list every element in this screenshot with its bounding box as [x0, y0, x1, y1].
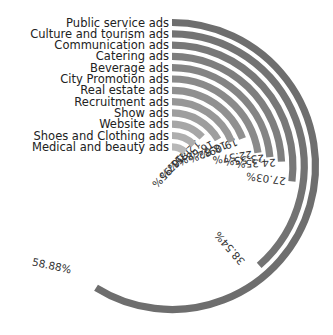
value-label: 11.95%	[150, 153, 186, 190]
value-label: 38.54%	[212, 229, 247, 267]
bar-medical-and-beauty-ads	[172, 147, 185, 152]
value-label: 58.88%	[31, 255, 73, 275]
radial-bar-chart: Public service ads58.88%Culture and tour…	[0, 0, 333, 335]
category-label: Medical and beauty ads	[32, 140, 169, 154]
bar-shoes-and-clothing-ads	[172, 136, 194, 145]
value-label: 27.03%	[245, 171, 286, 188]
